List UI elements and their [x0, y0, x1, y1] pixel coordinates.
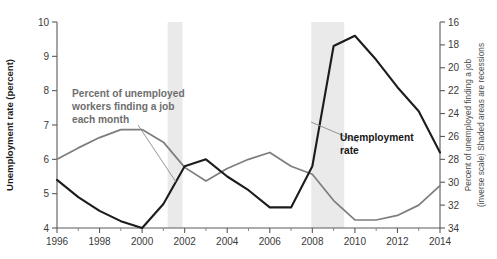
left-tick-label: 6: [43, 154, 49, 165]
recession-band: [311, 22, 344, 228]
x-tick-label: 2002: [174, 236, 197, 247]
right-tick-label: 34: [448, 223, 460, 234]
right-tick-label: 22: [448, 85, 460, 96]
left-tick-label: 7: [43, 120, 49, 131]
annotation-line: Unemployment: [340, 132, 414, 143]
annotation-line: workers finding a job: [71, 101, 174, 112]
x-tick-label: 1998: [88, 236, 111, 247]
x-axis: 1996199820002002200420062008201020122014: [46, 228, 452, 247]
left-axis: 45678910: [38, 17, 57, 234]
x-tick-label: 2008: [301, 236, 324, 247]
annotation-line: rate: [340, 145, 359, 156]
right-tick-label: 16: [448, 17, 460, 28]
right-tick-label: 28: [448, 154, 460, 165]
x-tick-label: 2004: [216, 236, 239, 247]
left-tick-label: 9: [43, 51, 49, 62]
right-tick-label: 20: [448, 62, 460, 73]
x-axis-ticks: 1996199820002002200420062008201020122014: [46, 228, 452, 247]
left-axis-title: Unemployment rate (percent): [4, 59, 15, 191]
right-axis-title-line2: (inverse scale) Shaded areas are recessi…: [476, 43, 486, 207]
left-tick-label: 10: [38, 17, 50, 28]
left-tick-label: 5: [43, 188, 49, 199]
right-axis-title-line1: Percent of unemployed finding a job: [463, 58, 473, 191]
recession-band: [168, 22, 183, 228]
left-axis-ticks: 45678910: [38, 17, 57, 234]
annotation-line: Percent of unemployed: [72, 88, 185, 99]
right-tick-label: 18: [448, 39, 460, 50]
right-axis: 16182022242628303234: [440, 17, 460, 234]
annotation-line: each month: [72, 114, 129, 125]
x-tick-label: 2006: [259, 236, 282, 247]
x-tick-label: 2014: [429, 236, 452, 247]
job-finding-rate-line: [57, 130, 440, 220]
x-tick-label: 2000: [131, 236, 154, 247]
right-tick-label: 26: [448, 131, 460, 142]
unemployment-chart: 45678910 16182022242628303234 1996199820…: [0, 0, 497, 259]
left-tick-label: 8: [43, 85, 49, 96]
x-tick-label: 2012: [386, 236, 409, 247]
unemployment-rate-annotation: Unemployment rate: [340, 132, 414, 156]
left-tick-label: 4: [43, 223, 49, 234]
right-tick-label: 30: [448, 177, 460, 188]
right-axis-ticks: 16182022242628303234: [440, 17, 460, 234]
x-tick-label: 1996: [46, 236, 69, 247]
right-tick-label: 32: [448, 200, 460, 211]
x-tick-label: 2010: [344, 236, 367, 247]
right-tick-label: 24: [448, 108, 460, 119]
job-finding-annotation: Percent of unemployed workers finding a …: [71, 88, 185, 125]
chart-container: 45678910 16182022242628303234 1996199820…: [0, 0, 497, 259]
